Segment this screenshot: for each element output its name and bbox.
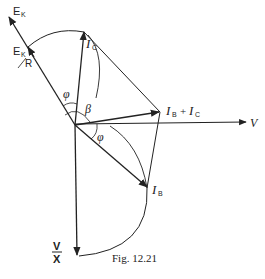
v-axis: [75, 122, 246, 124]
svg-text:+: +: [180, 105, 186, 117]
upper-locus-arc: [28, 31, 84, 47]
svg-text:C: C: [92, 44, 97, 51]
ib-label: I B: [151, 182, 163, 197]
ib-rotation-arc: [110, 126, 147, 188]
ek-label: E K: [13, 5, 26, 18]
svg-text:K: K: [21, 11, 26, 18]
svg-text:I: I: [85, 36, 91, 51]
svg-text:X: X: [53, 253, 61, 265]
svg-text:E: E: [13, 45, 20, 57]
beta-label: β: [84, 102, 91, 116]
svg-text:B: B: [158, 190, 163, 197]
svg-text:I: I: [151, 182, 157, 197]
ek-vector: [9, 17, 75, 125]
svg-text:V: V: [53, 240, 61, 252]
phi-bottom-label: φ: [97, 130, 104, 144]
svg-text:I: I: [165, 103, 171, 118]
phi-top-arc: [63, 103, 77, 106]
figure-caption: Fig. 12.21: [112, 252, 157, 264]
svg-text:B: B: [172, 111, 177, 118]
phasor-diagram: E K E K R I C I B + I C V I B V X φ β φ …: [0, 0, 265, 279]
svg-text:K: K: [21, 51, 26, 58]
ek-r-vector-marker: [28, 47, 34, 57]
v-label: V: [250, 116, 259, 130]
ib-plus-ic-label: I B + I C: [165, 103, 200, 118]
v-over-x-label: V X: [52, 240, 62, 265]
svg-text:R: R: [25, 58, 32, 69]
lower-locus-arc: [79, 188, 147, 256]
svg-text:E: E: [13, 5, 20, 17]
svg-text:I: I: [188, 103, 194, 118]
phi-top-label: φ: [63, 87, 70, 101]
ib-vector: [75, 125, 147, 187]
svg-text:C: C: [195, 111, 200, 118]
v-over-x-vector: [75, 125, 77, 255]
